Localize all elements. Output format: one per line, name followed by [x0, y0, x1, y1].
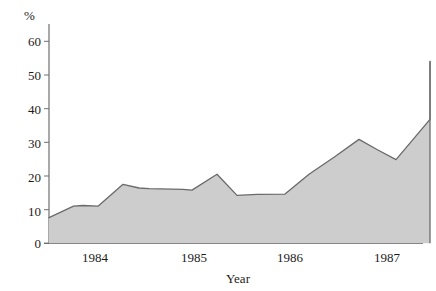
y-tick-label-40: 40 — [28, 102, 41, 117]
y-tick-label-60: 60 — [28, 34, 41, 49]
x-axis-title: Year — [226, 271, 251, 286]
x-tick-label-1986: 1986 — [277, 250, 304, 265]
x-tick-label-1984: 1984 — [82, 250, 109, 265]
chart-canvas: % 60 50 40 30 20 10 0 1984 1985 — [0, 0, 436, 291]
y-axis-unit-label: % — [24, 8, 35, 23]
x-tick-label-1985: 1985 — [181, 250, 207, 265]
area-chart: % 60 50 40 30 20 10 0 1984 1985 — [0, 0, 436, 291]
y-tick-label-50: 50 — [28, 68, 41, 83]
y-tick-label-10: 10 — [28, 204, 41, 219]
y-tick-label-20: 20 — [28, 170, 41, 185]
x-tick-label-1987: 1987 — [374, 250, 401, 265]
y-tick-label-0: 0 — [35, 236, 42, 251]
y-tick-label-30: 30 — [28, 136, 41, 151]
